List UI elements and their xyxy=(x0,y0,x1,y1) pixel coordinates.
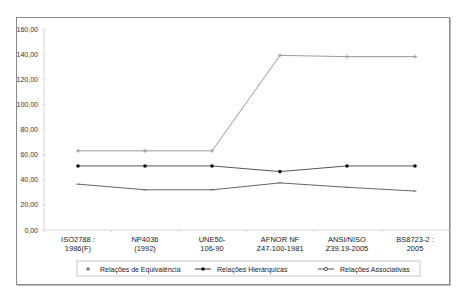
legend-label: Relações Hierárquicas xyxy=(217,266,288,274)
y-tick-label: 40,00 xyxy=(20,176,38,183)
series-line xyxy=(78,55,415,150)
y-tick-label: 0,00 xyxy=(24,227,38,234)
legend-label: Relações Associativas xyxy=(340,266,410,274)
x-category-label: UNE50- xyxy=(199,235,226,244)
x-category-label: BS8723-2 : xyxy=(396,235,434,244)
series-lines xyxy=(76,53,417,191)
y-tick-label: 60,00 xyxy=(20,151,38,158)
y-tick-label: 140,00 xyxy=(17,51,39,58)
x-category-label: Z47-100-1981 xyxy=(256,244,303,253)
line-chart: 0,0020,0040,0060,0080,00100,00120,00140,… xyxy=(0,0,466,304)
series-line xyxy=(78,183,415,191)
y-tick-label: 20,00 xyxy=(20,201,38,208)
y-axis: 0,0020,0040,0060,0080,00100,00120,00140,… xyxy=(17,26,44,234)
y-tick-label: 160,00 xyxy=(17,26,39,33)
x-category-label: ANSI/NISO xyxy=(328,235,366,244)
x-category-label: ISO2788 : xyxy=(61,235,95,244)
x-category-label: NP4036 xyxy=(131,235,158,244)
series-line xyxy=(78,166,415,172)
x-category-label: 1986(F) xyxy=(65,244,92,253)
x-category-label: Z39.19-2005 xyxy=(326,244,369,253)
legend: Relações de EquivalênciaRelações Hierárq… xyxy=(77,261,420,276)
legend-label: Relações de Equivalência xyxy=(100,266,181,274)
x-axis: ISO2788 :1986(F)NP4036(1992)UNE50-106-90… xyxy=(44,230,449,253)
x-category-label: 2005 xyxy=(407,244,424,253)
y-tick-label: 100,00 xyxy=(17,101,39,108)
x-category-label: (1992) xyxy=(134,244,156,253)
x-category-label: AFNOR NF xyxy=(261,235,300,244)
y-tick-label: 120,00 xyxy=(17,76,39,83)
x-category-label: 106-90 xyxy=(200,244,223,253)
y-tick-label: 80,00 xyxy=(20,126,38,133)
